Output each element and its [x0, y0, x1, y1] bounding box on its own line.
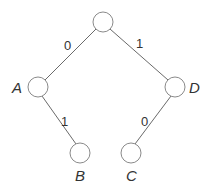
edge-label-a-b: 1	[61, 114, 68, 129]
node-b	[70, 143, 90, 163]
edge-root-a	[45, 29, 96, 80]
binary-tree-diagram: 0 1 1 0 A D B C	[0, 0, 210, 193]
node-label-a: A	[11, 79, 22, 96]
node-label-b: B	[75, 167, 85, 184]
node-a	[28, 77, 48, 97]
edge-label-d-c: 0	[141, 114, 148, 129]
edge-label-root-d: 1	[136, 36, 143, 51]
node-label-c: C	[126, 167, 137, 184]
node-d	[165, 77, 185, 97]
edge-label-root-a: 0	[64, 38, 71, 53]
node-label-d: D	[189, 79, 200, 96]
node-c	[121, 143, 141, 163]
edge-a-b	[42, 96, 76, 144]
node-root	[93, 12, 113, 32]
